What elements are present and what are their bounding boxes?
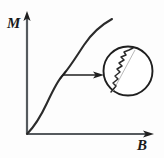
magnetization-figure: M B (0, 0, 164, 158)
y-axis (23, 11, 30, 134)
x-axis (27, 130, 154, 137)
y-axis-label: M (6, 15, 21, 31)
magnifier-inset (104, 47, 153, 96)
x-axis-label: B (136, 137, 147, 153)
magnifier-circle (104, 47, 153, 96)
figure-canvas: M B (0, 0, 164, 158)
